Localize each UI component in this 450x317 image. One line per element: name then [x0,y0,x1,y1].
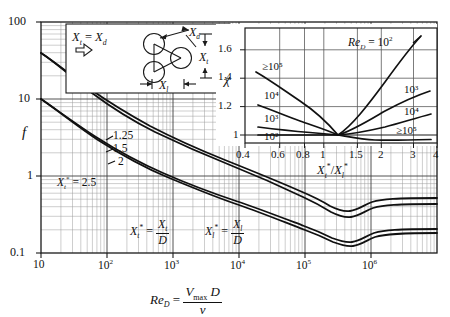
def-xl-fraction: Xl D [231,218,244,246]
main-ytick-0p1: 0.1 [10,245,25,260]
schematic-xd-sub: d [103,38,107,47]
inset-legend-title: ReD = 102 [348,35,393,51]
main-xtick-1e3: 103 [164,258,179,271]
curve-label-1p5: 1.5 [113,142,127,154]
main-xlabel-denominator: ν [183,303,221,316]
schematic-xt-sym: X [72,30,80,44]
schematic-equals: = [85,30,92,44]
inset-label-right-1e3: 10³ [404,83,418,95]
def-xt-sub: t [137,231,139,240]
inset-legend-re-sub: D [360,43,365,51]
main-ytick-1: 1 [27,168,33,183]
schematic-xt-label-sub: t [206,57,208,66]
curve-label-2: 2 [118,155,124,167]
inset-label-right-1e4: 10⁴ [404,105,419,117]
def-xt-eq: = [146,224,153,238]
def-xl-sub: l [212,231,214,240]
schematic-xt-sub: t [80,38,82,47]
main-xlabel-fraction: Vmax D ν [183,285,221,316]
schematic-xd-sym: X [95,30,103,44]
inset-legend-re: Re [348,36,360,48]
def-xt-den: D [156,234,169,246]
curve-label-xt-2p5: Xt* = 2.5 [57,175,96,191]
main-xlabel: ReD = Vmax D ν [150,285,222,316]
inset-label-left-1e3: 10³ [264,112,278,124]
definition-xt-star: Xt* = Xt D [130,218,169,246]
main-xtick-10: 10 [33,258,45,270]
schematic-label-xt: Xt [199,50,208,66]
def-xt-fraction: Xt D [156,218,169,246]
inset-label-left-1e5: ≥10⁵ [262,60,283,72]
main-xlabel-equals: = [173,292,180,307]
main-xlabel-numerator: Vmax D [183,285,221,303]
def-xl-star: * [214,223,218,232]
inset-xlabel-den-sub: l [342,171,344,180]
def-xl-den: D [231,234,244,246]
inset-label-right-1e5: ≥10⁵ [396,124,417,136]
inset-ytick-1: 1 [233,128,239,140]
schematic-label-xd: Xd [189,25,200,41]
main-xtick-1e6: 106 [362,258,377,271]
inset-xtick-0p6: 0.6 [271,148,285,160]
inset-xtick-4: 4 [433,148,439,160]
curve-label-x-sub: t [64,183,66,191]
main-xtick-1e5: 105 [296,258,311,271]
inset-legend-sup: 2 [389,35,393,43]
inset-xtick-2: 2 [378,148,384,160]
main-xlabel-re: Re [150,292,164,307]
def-xt-star: * [139,223,143,232]
inset-ytick-1p4: 1.4 [218,70,232,82]
curve-label-x-sym: X [57,176,64,188]
schematic-relation: Xt = Xd [72,30,107,47]
inset-xlabel-den-sym: X [334,163,342,177]
schematic-label-xl: Xl [159,78,168,94]
inset-xtick-1p5: 1.5 [349,148,363,160]
inset-xtick-0p8: 0.8 [296,148,310,160]
main-ylabel: f [22,124,26,141]
curve-label-x-value: = 2.5 [72,176,96,188]
inset-xlabel: Xt*/Xl* [317,162,348,180]
curve-label-1p25: 1.25 [113,129,133,141]
inset-xtick-0p4: 0.4 [236,148,250,160]
def-xl-num: Xl [231,218,244,234]
inset-xlabel-den-star: * [344,162,348,171]
main-xtick-1e4: 104 [230,258,245,271]
inset-xtick-3: 3 [410,148,416,160]
inset-label-left-1e4: 10⁴ [264,89,279,101]
inset-legend-eq: = 10 [368,36,389,48]
def-xt-num: Xt [156,218,169,234]
inset-xlabel-num-sym: X [317,163,325,177]
main-xlabel-sub: D [164,300,170,309]
schematic-xl-label-sub: l [166,85,168,94]
inset-ytick-1p2: 1.2 [218,99,232,111]
curve-label-x-star: * [66,175,70,183]
def-xl-eq: = [221,224,228,238]
definition-xl-star: Xl* = Xl D [205,218,244,246]
inset-label-left-1e2: 10² [264,130,278,142]
inset-xtick-1: 1 [320,148,326,160]
friction-factor-figure: 100 10 1 0.1 f 10 102 103 104 105 106 Re… [0,0,450,317]
main-ytick-100: 100 [8,14,26,29]
main-ytick-10: 10 [18,91,30,106]
main-xtick-1e2: 102 [98,258,113,271]
inset-xlabel-num-sub: t [325,171,327,180]
inset-ytick-1p6: 1.6 [218,42,232,54]
schematic-xd-label-sub: d [196,32,200,41]
